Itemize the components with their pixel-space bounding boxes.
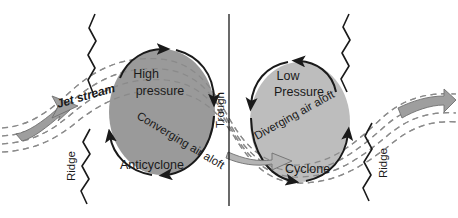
trough-label: Trough [214,92,226,128]
weather-pattern-svg: High pressure Low Pressure Anticyclone C… [0,0,458,218]
jet-stream-label: Jet stream [55,81,117,111]
ridge-left-label: Ridge [65,151,77,181]
ridge-axis-left-wavy [81,129,90,204]
jet-arrow-right [398,89,456,118]
anticyclone-label: Anticyclone [120,158,184,172]
cyclone-label: Cyclone [285,162,330,176]
ridge-right-label: Ridge [377,148,389,178]
high-pressure-label-line1: High [133,67,159,81]
low-pressure-label-line1: Low [277,69,301,83]
trough-axis-bottom-wavy [341,14,350,92]
trough-axis-top-wavy [88,14,96,93]
high-pressure-label-line2: pressure [136,84,185,98]
diagram-canvas: High pressure Low Pressure Anticyclone C… [0,0,458,218]
